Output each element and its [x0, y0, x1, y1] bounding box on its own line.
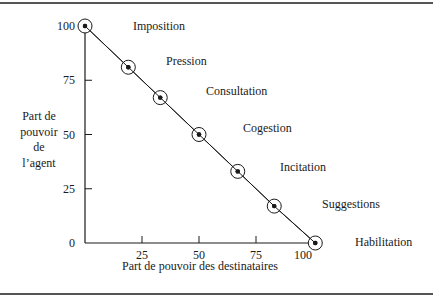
- data-point-dot: [126, 65, 130, 69]
- data-point-dot: [236, 169, 240, 173]
- y-tick-label: 50: [63, 128, 75, 142]
- y-tick-label: 0: [69, 236, 75, 250]
- data-point-dot: [158, 95, 162, 99]
- y-tick-label: 100: [57, 19, 75, 33]
- point-label: Consultation: [206, 84, 267, 98]
- point-label: Habilitation: [355, 235, 412, 249]
- x-axis-label: Part de pouvoir des destinataires: [122, 259, 278, 273]
- point-label: Cogestion: [243, 121, 292, 135]
- y-tick-label: 25: [63, 182, 75, 196]
- y-tick-label: 75: [63, 73, 75, 87]
- data-point-dot: [272, 204, 276, 208]
- data-point-dot: [197, 132, 201, 136]
- point-label: Pression: [166, 54, 207, 68]
- data-point-dot: [313, 241, 317, 245]
- point-label: Incitation: [280, 160, 326, 174]
- point-label: Suggestions: [322, 197, 380, 211]
- x-tick-label: 100: [294, 248, 312, 262]
- chart-plot: 2550751000255075100 ImpositionPressionCo…: [0, 0, 433, 297]
- point-labels: ImpositionPressionConsultationCogestionI…: [133, 19, 412, 249]
- data-point-dot: [83, 24, 87, 28]
- point-label: Imposition: [133, 19, 185, 33]
